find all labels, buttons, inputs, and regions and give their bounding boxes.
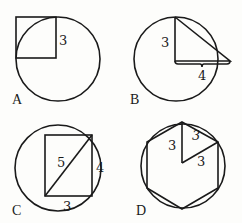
diagonal-label: 5 [57, 155, 65, 170]
circle-a [16, 17, 100, 101]
radius-1-label: 3 [168, 138, 176, 153]
vertical-leg-label: 3 [161, 35, 169, 50]
horizontal-leg-label: 4 [198, 68, 206, 83]
diagonal-c [45, 135, 92, 196]
circle-b [134, 17, 218, 101]
panel-label-c: C [12, 203, 21, 218]
panel-b: 3 4 B [130, 17, 230, 107]
panel-c: 5 4 3 C [12, 125, 104, 218]
panel-label-b: B [130, 92, 139, 107]
circle-d [141, 124, 225, 208]
panel-a: 3 A [12, 17, 100, 107]
radius-2-label: 3 [197, 154, 205, 169]
height-label: 4 [96, 160, 104, 175]
geometry-diagram: 3 A 3 4 B 5 4 3 C 3 3 3 D [0, 0, 242, 223]
triangle-b [175, 17, 230, 61]
panel-d: 3 3 3 D [136, 122, 225, 218]
width-label: 3 [63, 199, 71, 214]
panel-label-d: D [136, 203, 146, 218]
brace-b [175, 61, 230, 67]
panel-label-a: A [12, 92, 23, 107]
side-label: 3 [192, 128, 200, 143]
square-side-label: 3 [59, 33, 67, 48]
